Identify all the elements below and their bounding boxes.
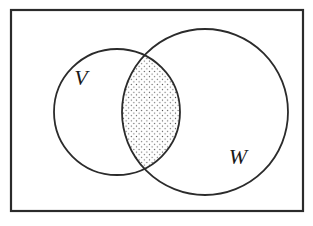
set-label-w: W bbox=[229, 144, 249, 169]
venn-diagram-figure: V W bbox=[0, 0, 313, 226]
venn-diagram-canvas: V W bbox=[0, 0, 313, 226]
